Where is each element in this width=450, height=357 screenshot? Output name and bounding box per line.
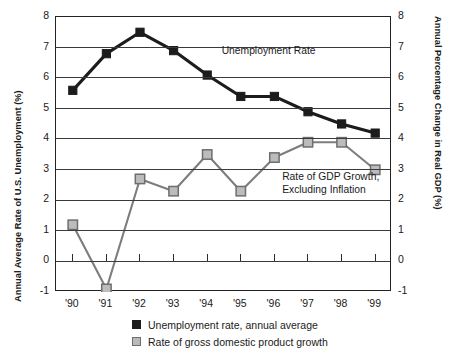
y-axis-left-tick-label: 3 — [25, 162, 49, 174]
data-point-marker — [237, 92, 245, 100]
data-point-marker — [236, 186, 245, 195]
x-axis-tick — [341, 254, 342, 261]
chart-legend: Unemployment rate, annual average Rate o… — [132, 316, 392, 350]
y-axis-left-tick-label: 4 — [25, 131, 49, 143]
y-axis-left-tick-label: 1 — [25, 223, 49, 235]
gridline — [56, 108, 390, 109]
y-axis-right-tick-label: 7 — [398, 40, 422, 52]
y-axis-right-tick-label: 1 — [398, 223, 422, 235]
y-axis-right-tick-label: 5 — [398, 101, 422, 113]
x-axis-tick-label: '96 — [256, 297, 290, 309]
data-point-marker — [270, 92, 278, 100]
gridline — [56, 200, 390, 201]
legend-item-label: Unemployment rate, annual average — [148, 319, 318, 331]
y-axis-left-tick-label: 2 — [25, 192, 49, 204]
x-axis-tick — [139, 254, 140, 261]
y-axis-left-title-container: Annual Average Rate of U.S. Unemployment… — [2, 14, 16, 304]
chart-annotation: Unemployment Rate — [222, 44, 316, 57]
legend-item: Unemployment rate, annual average — [132, 316, 392, 333]
y-axis-left-title: Annual Average Rate of U.S. Unemployment… — [13, 90, 23, 302]
y-axis-right-tick-label: 4 — [398, 131, 422, 143]
x-axis-tick — [72, 254, 73, 261]
chart-annotation: Excluding Inflation — [282, 183, 366, 196]
x-axis-tick — [173, 254, 174, 261]
data-point-marker — [338, 120, 346, 128]
gridline — [56, 77, 390, 78]
y-axis-left-tick-label: 7 — [25, 40, 49, 52]
x-axis-tick-label: '90 — [55, 297, 89, 309]
y-axis-right-tick-label: 8 — [398, 9, 422, 21]
y-axis-right-tick-label: 3 — [398, 162, 422, 174]
x-axis-tick — [375, 254, 376, 261]
x-axis-tick-label: '97 — [290, 297, 324, 309]
y-axis-right-title: Annual Percentage Change in Real GDP (%) — [433, 16, 443, 210]
x-axis-tick-label: '91 — [88, 297, 122, 309]
data-point-marker — [68, 220, 77, 229]
y-axis-left-tick-label: -1 — [25, 284, 49, 296]
data-point-marker — [136, 28, 144, 36]
y-axis-right-title-container: Annual Percentage Change in Real GDP (%) — [432, 14, 446, 304]
plot-svg — [56, 17, 392, 292]
x-axis-tick — [307, 254, 308, 261]
legend-item-label: Rate of gross domestic product growth — [148, 336, 328, 348]
x-axis-tick — [240, 254, 241, 261]
y-axis-right-tick-label: -1 — [398, 284, 422, 296]
data-point-marker — [169, 186, 178, 195]
data-point-marker — [102, 284, 111, 292]
x-axis-tick-label: '94 — [189, 297, 223, 309]
chart-annotation: Rate of GDP Growth, — [282, 170, 379, 183]
x-axis-tick — [274, 254, 275, 261]
data-point-marker — [69, 86, 77, 94]
y-axis-left-tick-label: 5 — [25, 101, 49, 113]
x-axis-tick-label: '95 — [223, 297, 257, 309]
gridline — [56, 230, 390, 231]
y-axis-right-tick-label: 2 — [398, 192, 422, 204]
filled-square-icon — [132, 320, 141, 329]
data-point-marker — [102, 50, 110, 58]
x-axis-tick-label: '98 — [324, 297, 358, 309]
plot-area — [55, 16, 391, 291]
open-square-icon — [132, 337, 141, 346]
x-axis-tick — [207, 254, 208, 261]
y-axis-left-tick-label: 8 — [25, 9, 49, 21]
gridline — [56, 138, 390, 139]
y-axis-right-tick-label: 6 — [398, 70, 422, 82]
series-line — [73, 142, 375, 289]
x-axis-tick — [106, 254, 107, 261]
y-axis-left-tick-label: 6 — [25, 70, 49, 82]
chart-figure: Annual Average Rate of U.S. Unemployment… — [0, 0, 450, 357]
x-axis-tick-label: '99 — [357, 297, 391, 309]
y-axis-right-tick-label: 0 — [398, 253, 422, 265]
legend-item: Rate of gross domestic product growth — [132, 333, 392, 350]
data-point-marker — [135, 174, 144, 183]
y-axis-left-tick-label: 0 — [25, 253, 49, 265]
x-axis-tick-label: '92 — [122, 297, 156, 309]
x-axis-tick-label: '93 — [156, 297, 190, 309]
data-point-marker — [270, 153, 279, 162]
data-point-marker — [371, 129, 379, 137]
data-point-marker — [203, 150, 212, 159]
